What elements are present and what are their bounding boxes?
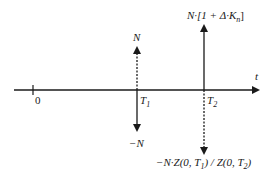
t2-down-label: −N·Z(0, T1) / Z(0, T2) [156, 156, 252, 171]
t1-up-label: N [132, 31, 141, 43]
origin-label: 0 [35, 94, 41, 106]
axis-label-t: t [255, 70, 259, 82]
t1-label: T1 [140, 94, 150, 109]
t2-label: T2 [207, 94, 217, 109]
t1-down-label: −N [129, 137, 144, 149]
cash-flow-diagram: t 0 N −N T1 N·[1 + Δ·Kn] T2 −N·Z(0, T1) … [0, 0, 277, 176]
t2-up-label: N·[1 + Δ·Kn] [186, 9, 244, 24]
